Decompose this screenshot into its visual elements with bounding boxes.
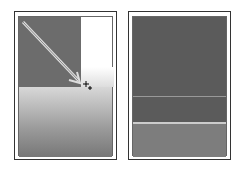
left-panel bbox=[14, 11, 117, 160]
right-panel bbox=[128, 11, 231, 160]
lower-band bbox=[133, 122, 226, 157]
divider-line bbox=[133, 96, 226, 97]
left-canvas[interactable] bbox=[18, 16, 113, 156]
crosshair-cursor-icon bbox=[19, 17, 114, 157]
right-canvas[interactable] bbox=[132, 16, 227, 156]
